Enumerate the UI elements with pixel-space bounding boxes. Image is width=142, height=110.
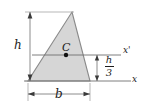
h3-arrow-down xyxy=(95,76,99,82)
base-arrow-left xyxy=(28,92,35,97)
centroid-label: C xyxy=(62,42,70,53)
triangle-centroid-figure: h b C x' x h 3 xyxy=(0,0,142,110)
h-over-3-fraction: h 3 xyxy=(102,55,116,78)
figure-canvas xyxy=(0,0,142,110)
triangle-shape xyxy=(28,12,90,81)
height-label: h xyxy=(14,39,22,51)
fraction-numerator: h xyxy=(102,55,116,65)
fraction-denominator: 3 xyxy=(102,68,116,78)
axis-x-prime-label: x' xyxy=(123,46,131,55)
height-arrow-up xyxy=(28,12,33,19)
base-label: b xyxy=(55,88,63,100)
axis-x-label: x xyxy=(132,75,137,84)
base-arrow-right xyxy=(84,92,91,97)
h3-arrow-up xyxy=(95,55,99,61)
